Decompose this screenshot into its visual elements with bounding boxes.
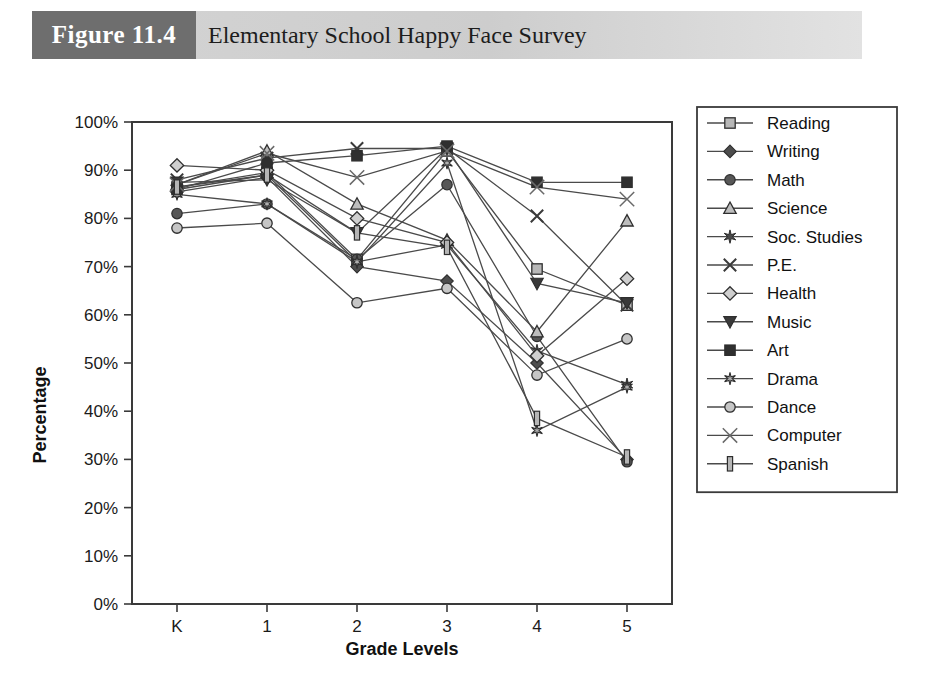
- chart-series-group: [170, 141, 634, 467]
- data-point-marker: [174, 180, 179, 194]
- y-tick-label: 50%: [84, 354, 118, 373]
- series-reading: [177, 151, 627, 305]
- series-drama: [177, 163, 627, 431]
- legend-label: Soc. Studies: [767, 228, 862, 247]
- y-tick-label: 30%: [84, 450, 118, 469]
- legend-label: Health: [767, 284, 816, 303]
- legend-label: Drama: [767, 370, 819, 389]
- x-axis-title: Grade Levels: [345, 639, 458, 659]
- y-tick-label: 70%: [84, 258, 118, 277]
- series-music: [177, 149, 627, 303]
- legend-label: Computer: [767, 426, 842, 445]
- data-point-marker: [534, 411, 539, 425]
- data-point-marker: [727, 457, 732, 471]
- markers-computer: [170, 144, 634, 207]
- legend-label: P.E.: [767, 256, 797, 275]
- x-tick-label: 3: [442, 617, 451, 636]
- legend-label: Math: [767, 171, 805, 190]
- x-tick-label: 2: [352, 617, 361, 636]
- data-point-marker: [725, 118, 735, 128]
- data-point-marker: [262, 158, 272, 168]
- y-tick-label: 100%: [75, 113, 118, 132]
- data-point-marker: [170, 159, 183, 172]
- data-point-marker: [444, 240, 449, 254]
- legend-label: Music: [767, 313, 812, 332]
- chart-legend: ReadingWritingMathScienceSoc. StudiesP.E…: [697, 107, 897, 492]
- data-point-marker: [622, 177, 632, 187]
- chart-axes: [124, 122, 672, 612]
- data-point-marker: [262, 218, 272, 228]
- data-point-marker: [352, 298, 362, 308]
- x-tick-label: 1: [262, 617, 271, 636]
- y-tick-label: 10%: [84, 547, 118, 566]
- legend-label: Art: [767, 341, 789, 360]
- data-point-marker: [352, 151, 362, 161]
- y-tick-label: 90%: [84, 161, 118, 180]
- data-point-marker: [172, 223, 182, 233]
- x-tick-label: 4: [532, 617, 541, 636]
- x-tick-label: 5: [622, 617, 631, 636]
- data-point-marker: [725, 345, 735, 355]
- data-point-marker: [531, 210, 543, 222]
- data-point-marker: [532, 370, 542, 380]
- data-point-marker: [725, 402, 735, 412]
- y-tick-label: 0%: [93, 595, 118, 614]
- y-tick-label: 60%: [84, 306, 118, 325]
- data-point-marker: [350, 212, 363, 225]
- data-point-marker: [621, 215, 633, 226]
- data-point-marker: [354, 226, 359, 240]
- y-axis-tick-labels: 0%10%20%30%40%50%60%70%80%90%100%: [75, 113, 118, 614]
- x-axis-tick-labels: K12345: [171, 617, 631, 636]
- figure-number-tag: Figure 11.4: [32, 11, 196, 59]
- y-tick-label: 20%: [84, 499, 118, 518]
- y-tick-label: 80%: [84, 209, 118, 228]
- data-point-marker: [264, 168, 269, 182]
- data-point-marker: [725, 175, 735, 185]
- data-point-marker: [532, 177, 542, 187]
- series-writing: [177, 177, 627, 459]
- data-point-marker: [624, 450, 629, 464]
- legend-label: Dance: [767, 398, 816, 417]
- y-tick-label: 40%: [84, 402, 118, 421]
- x-tick-label: K: [171, 617, 183, 636]
- data-point-marker: [532, 264, 542, 274]
- series-health: [177, 165, 627, 355]
- series-computer: [177, 151, 627, 199]
- data-point-marker: [350, 170, 364, 184]
- figure-title: Elementary School Happy Face Survey: [208, 11, 587, 59]
- markers-drama: [172, 157, 633, 437]
- markers-science: [171, 145, 633, 337]
- series-art: [177, 146, 627, 189]
- chart-area: 0%10%20%30%40%50%60%70%80%90%100% K12345…: [0, 85, 932, 677]
- line-chart: 0%10%20%30%40%50%60%70%80%90%100% K12345…: [0, 85, 932, 677]
- data-point-marker: [442, 283, 452, 293]
- series-spanish: [177, 175, 627, 457]
- data-point-marker: [442, 141, 452, 151]
- markers-writing: [171, 171, 633, 465]
- figure-container: Figure 11.4 Elementary School Happy Face…: [0, 0, 932, 677]
- legend-label: Reading: [767, 114, 830, 133]
- series-dance: [177, 223, 627, 375]
- data-point-marker: [442, 179, 452, 189]
- legend-label: Science: [767, 199, 827, 218]
- legend-label: Writing: [767, 142, 820, 161]
- legend-label: Spanish: [767, 455, 828, 474]
- series-p-e: [177, 149, 627, 306]
- data-point-marker: [622, 334, 632, 344]
- data-point-marker: [172, 208, 182, 218]
- data-point-marker: [351, 198, 363, 209]
- markers-p-e: [171, 142, 633, 311]
- data-point-marker: [620, 192, 634, 206]
- y-axis-title: Percentage: [30, 366, 50, 463]
